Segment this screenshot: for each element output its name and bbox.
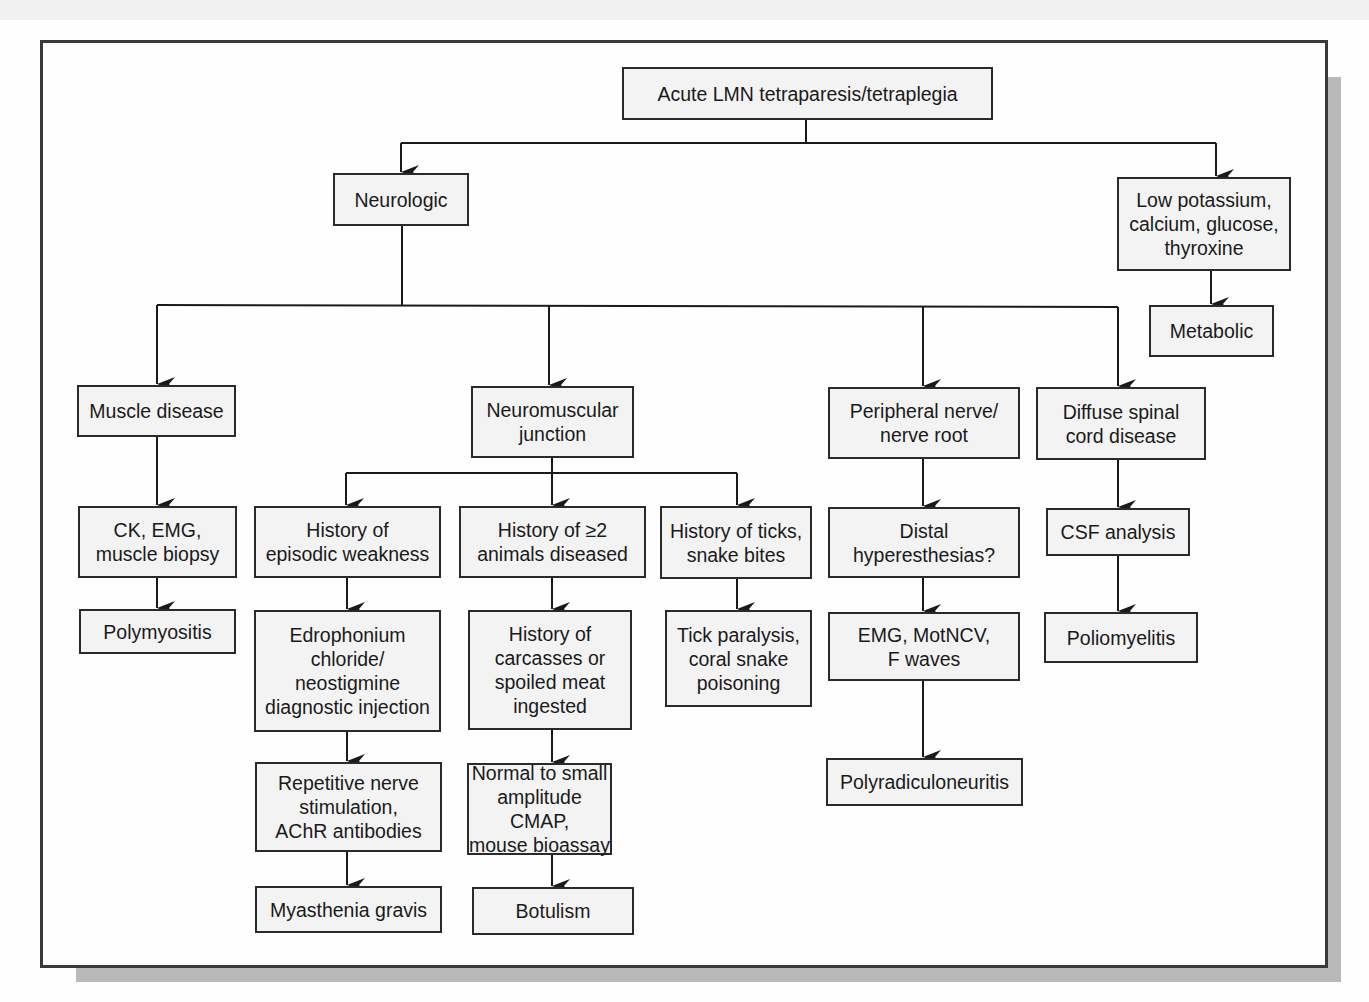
node-polyradiculoneuritis: Polyradiculoneuritis: [826, 758, 1023, 806]
node-poliomyelitis: Poliomyelitis: [1044, 612, 1198, 663]
node-edrophonium: Edrophonium chloride/ neostigmine diagno…: [254, 610, 441, 732]
node-botulism: Botulism: [472, 887, 634, 935]
node-low-electrolytes: Low potassium, calcium, glucose, thyroxi…: [1117, 177, 1291, 271]
node-muscle-disease: Muscle disease: [77, 385, 236, 437]
node-emg-motncv: EMG, MotNCV, F waves: [828, 612, 1020, 681]
node-hx-multiple: History of ≥2 animals diseased: [459, 506, 646, 578]
node-csf: CSF analysis: [1046, 508, 1190, 556]
node-normal-cmap: Normal to small amplitude CMAP, mouse bi…: [467, 763, 612, 855]
node-metabolic: Metabolic: [1149, 305, 1274, 357]
node-nmj: Neuromuscular junction: [471, 386, 634, 458]
node-ck-emg: CK, EMG, muscle biopsy: [78, 506, 237, 578]
node-carcasses: History of carcasses or spoiled meat ing…: [468, 610, 632, 730]
node-tick-paralysis: Tick paralysis, coral snake poisoning: [665, 610, 812, 707]
connector-lines: [0, 0, 1369, 1002]
node-repetitive: Repetitive nerve stimulation, AChR antib…: [255, 762, 442, 852]
node-neurologic: Neurologic: [333, 173, 469, 226]
node-polymyositis: Polymyositis: [79, 609, 236, 654]
node-hx-episodic: History of episodic weakness: [254, 506, 441, 578]
node-hx-ticks: History of ticks, snake bites: [660, 506, 812, 579]
node-peripheral-nerve: Peripheral nerve/ nerve root: [828, 387, 1020, 459]
node-myasthenia: Myasthenia gravis: [255, 886, 442, 933]
node-root: Acute LMN tetraparesis/tetraplegia: [622, 67, 993, 120]
node-distal-hyper: Distal hyperesthesias?: [828, 507, 1020, 578]
node-spinal-cord: Diffuse spinal cord disease: [1036, 387, 1206, 460]
